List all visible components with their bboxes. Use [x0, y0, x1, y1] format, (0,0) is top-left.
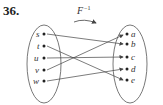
codomain-ellipse [113, 25, 147, 103]
label-t: t [37, 41, 40, 51]
function-name: F [76, 5, 84, 16]
codomain-points: a b c d e [126, 29, 137, 85]
label-c: c [131, 52, 135, 62]
label-b: b [131, 39, 136, 49]
label-u: u [34, 53, 39, 63]
arrow-u-c [47, 57, 123, 58]
label-w: w [33, 76, 39, 86]
label-e: e [131, 75, 135, 85]
mapping-diagram: F −1 s t u v w a b c d e [0, 0, 163, 105]
curved-arrow-icon [74, 20, 96, 23]
arrow-v-a [47, 35, 123, 70]
function-exponent: −1 [84, 5, 90, 11]
function-label: F −1 [74, 5, 96, 23]
domain-ellipse [27, 25, 61, 103]
mapping-arrows [47, 34, 123, 81]
label-d: d [131, 64, 136, 74]
label-a: a [131, 29, 136, 39]
label-v: v [35, 65, 39, 75]
domain-points: s t u v w [33, 29, 46, 86]
label-s: s [36, 29, 40, 39]
